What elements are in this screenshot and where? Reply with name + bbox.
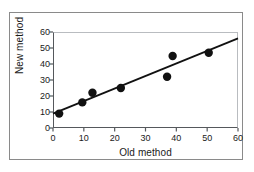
x-tick-label: 10 (74, 134, 94, 143)
x-tick-label: 40 (166, 134, 186, 143)
x-tick-label: 0 (43, 134, 63, 143)
y-axis-title: New method (14, 0, 25, 101)
x-tick-label: 30 (136, 134, 156, 143)
x-tick-label: 60 (228, 134, 248, 143)
scatter-plot-figure: 0102030405060 0102030405060 New method O… (0, 0, 254, 172)
x-tick-label: 20 (105, 134, 125, 143)
x-tick-label: 50 (197, 134, 217, 143)
x-axis-title: Old method (53, 147, 238, 158)
